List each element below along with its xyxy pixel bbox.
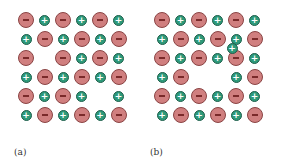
negative-ion-icon	[210, 31, 226, 47]
negative-ion-icon	[228, 12, 244, 28]
positive-ion-icon: +	[212, 91, 223, 102]
positive-ion-icon: +	[21, 34, 32, 45]
negative-ion-icon	[55, 50, 71, 66]
negative-ion-icon	[173, 31, 189, 47]
negative-ion-icon	[191, 50, 207, 66]
positive-ion-icon: +	[95, 34, 106, 45]
positive-ion-icon: +	[113, 15, 124, 26]
positive-ion-icon: +	[113, 53, 124, 64]
negative-ion-icon	[247, 69, 263, 85]
negative-ion-icon	[111, 69, 127, 85]
positive-ion-icon: +	[231, 72, 242, 83]
negative-ion-icon	[247, 31, 263, 47]
positive-ion-icon: +	[157, 34, 168, 45]
negative-ion-icon	[74, 107, 90, 123]
positive-ion-icon: +	[249, 91, 260, 102]
negative-ion-icon	[37, 31, 53, 47]
positive-ion-icon: +	[249, 53, 260, 64]
negative-ion-icon	[154, 88, 170, 104]
negative-ion-icon	[191, 88, 207, 104]
negative-ion-icon	[18, 50, 34, 66]
negative-ion-icon	[173, 107, 189, 123]
negative-ion-icon	[154, 50, 170, 66]
negative-ion-icon	[18, 88, 34, 104]
panel-label: (a)	[14, 147, 26, 157]
positive-ion-icon: +	[58, 34, 69, 45]
positive-ion-icon: +	[58, 72, 69, 83]
positive-ion-icon: +	[39, 15, 50, 26]
positive-ion-icon: +	[76, 91, 87, 102]
positive-ion-icon: +	[58, 110, 69, 121]
negative-ion-icon	[191, 12, 207, 28]
negative-ion-icon	[55, 12, 71, 28]
positive-ion-icon: +	[194, 34, 205, 45]
positive-ion-icon: +	[21, 72, 32, 83]
positive-ion-icon: +	[95, 110, 106, 121]
positive-ion-icon: +	[194, 110, 205, 121]
positive-ion-icon: +	[212, 15, 223, 26]
negative-ion-icon	[74, 31, 90, 47]
positive-ion-icon: +	[76, 15, 87, 26]
negative-ion-icon	[210, 107, 226, 123]
negative-ion-icon	[92, 12, 108, 28]
negative-ion-icon	[154, 12, 170, 28]
positive-ion-icon: +	[249, 15, 260, 26]
negative-ion-icon	[55, 88, 71, 104]
positive-ion-icon: +	[175, 53, 186, 64]
negative-ion-icon	[92, 50, 108, 66]
positive-ion-icon: +	[175, 15, 186, 26]
positive-ion-icon: +	[76, 53, 87, 64]
negative-ion-icon	[18, 12, 34, 28]
positive-ion-icon: +	[39, 91, 50, 102]
negative-ion-icon	[247, 107, 263, 123]
negative-ion-icon	[37, 69, 53, 85]
panel-label: (b)	[150, 147, 163, 157]
negative-ion-icon	[74, 69, 90, 85]
positive-ion-icon: +	[113, 91, 124, 102]
negative-ion-icon	[173, 69, 189, 85]
positive-ion-icon: +	[212, 53, 223, 64]
positive-ion-icon: +	[175, 91, 186, 102]
negative-ion-icon	[37, 107, 53, 123]
negative-ion-icon	[111, 107, 127, 123]
positive-ion-icon: +	[21, 110, 32, 121]
negative-ion-icon	[228, 88, 244, 104]
positive-ion-icon: +	[157, 72, 168, 83]
negative-ion-icon	[111, 31, 127, 47]
positive-ion-icon: +	[157, 110, 168, 121]
positive-ion-icon: +	[231, 110, 242, 121]
positive-ion-icon: +	[227, 43, 238, 54]
positive-ion-icon: +	[95, 72, 106, 83]
